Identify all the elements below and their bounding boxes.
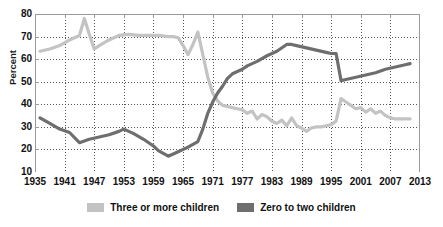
y-tick-label: 50 <box>6 77 32 87</box>
legend-label: Three or more children <box>110 202 219 213</box>
y-tick-label: 70 <box>6 32 32 42</box>
percent-line-chart: Percent 8070605040302010 193519411947195… <box>0 0 443 227</box>
y-tick-label: 80 <box>6 9 32 19</box>
y-tick-label: 20 <box>6 144 32 154</box>
legend-swatch-icon <box>237 203 254 212</box>
legend-item[interactable]: Zero to two children <box>237 202 356 213</box>
legend-swatch-icon <box>87 203 104 212</box>
y-tick-label: 40 <box>6 99 32 109</box>
chart-legend: Three or more childrenZero to two childr… <box>0 202 443 213</box>
x-axis-tick-labels: 1935194119471953195919651971197719831989… <box>35 0 420 227</box>
y-tick-label: 60 <box>6 54 32 64</box>
y-axis-tick-labels: 8070605040302010 <box>0 0 32 227</box>
legend-item[interactable]: Three or more children <box>87 202 219 213</box>
y-tick-label: 30 <box>6 122 32 132</box>
legend-label: Zero to two children <box>260 202 356 213</box>
x-tick-label: 2013 <box>400 176 440 187</box>
